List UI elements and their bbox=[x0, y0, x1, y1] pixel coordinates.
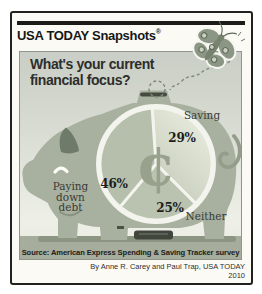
slice-value-saving: 29% bbox=[163, 131, 201, 145]
snapshot-graphic: USA TODAY Snapshots® bbox=[0, 0, 262, 294]
brand-logo: USA TODAY Snapshots® bbox=[17, 28, 217, 43]
source-line: Source: American Express Spending & Savi… bbox=[19, 248, 242, 257]
slice-label-paying-down-debt: Paying down debt bbox=[50, 181, 91, 213]
chart-title-line2: financial focus? bbox=[30, 73, 200, 89]
brand-logo-text: USA TODAY Snapshots bbox=[17, 28, 156, 43]
chart-title-line1: What's your current bbox=[30, 57, 200, 73]
slice-label-saving: Saving bbox=[178, 109, 226, 121]
slice-label-neither: Neither bbox=[181, 210, 231, 222]
registered-mark: ® bbox=[156, 28, 161, 35]
chart-title: What's your current financial focus? bbox=[30, 57, 200, 88]
top-rule bbox=[17, 21, 245, 25]
slice-value-paying-down-debt: 46% bbox=[97, 177, 131, 191]
byline-year: 2010 bbox=[185, 271, 245, 280]
byline-credit: By Anne R. Carey and Paul Trap, USA TODA… bbox=[55, 262, 245, 271]
